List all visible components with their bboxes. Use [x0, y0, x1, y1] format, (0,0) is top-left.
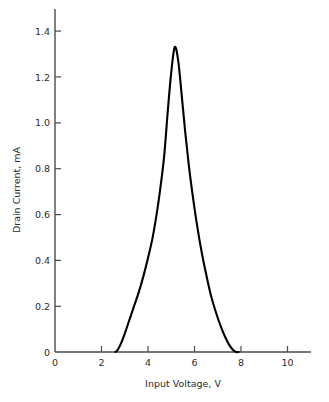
x-tick-label: 0 [52, 357, 58, 368]
y-tick-label: 0 [44, 347, 50, 358]
chart-plot-area: 0 0.2 0.4 0.6 0.8 1.0 1.2 1.4 0 2 4 6 8 … [0, 0, 329, 402]
y-axis-title: Drain Current, mA [11, 146, 22, 233]
x-tick-label: 2 [98, 357, 104, 368]
y-tick-label: 0.4 [35, 255, 50, 266]
x-tick-label: 6 [191, 357, 197, 368]
x-tick-label: 10 [281, 357, 293, 368]
y-tick-label: 0.8 [35, 163, 50, 174]
y-tick-label: 0.6 [35, 209, 50, 220]
x-axis-title: Input Voltage, V [145, 378, 221, 389]
y-tick-label: 1.2 [35, 72, 50, 83]
y-axis-ticks [55, 31, 61, 306]
chart-figure: 0 0.2 0.4 0.6 0.8 1.0 1.2 1.4 0 2 4 6 8 … [0, 0, 329, 402]
x-axis-ticks [102, 346, 288, 352]
y-tick-label: 0.2 [35, 301, 50, 312]
x-tick-label: 8 [238, 357, 244, 368]
drain-current-curve [115, 47, 238, 352]
x-tick-label: 4 [145, 357, 151, 368]
y-tick-label: 1.0 [35, 117, 50, 128]
y-tick-label: 1.4 [35, 26, 50, 37]
